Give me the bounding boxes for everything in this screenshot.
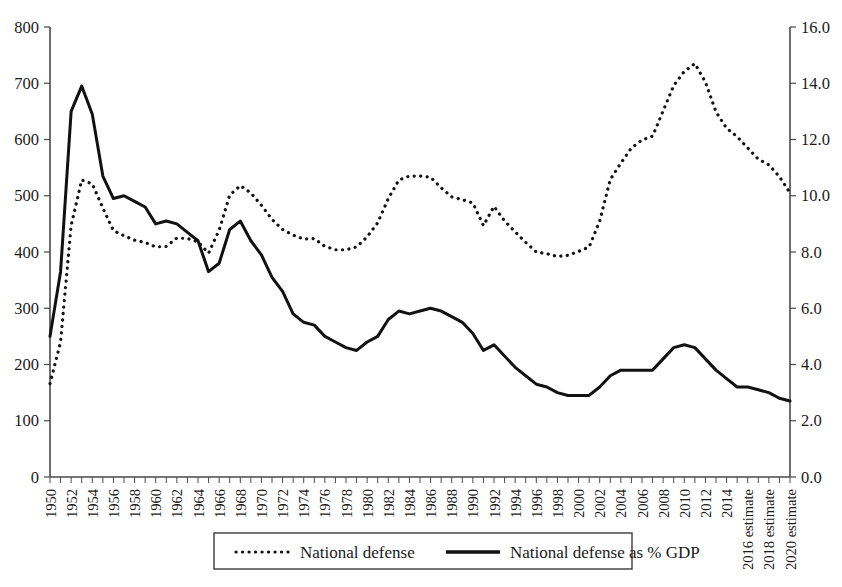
right-axis-tick-label: 12.0 (801, 130, 830, 149)
x-axis-tick-label: 1960 (148, 489, 164, 518)
left-axis-tick-label: 800 (14, 18, 39, 37)
left-axis-tick-label: 600 (14, 130, 39, 149)
right-axis-tick-label: 2.0 (801, 411, 822, 430)
x-axis-tick-label: 1990 (465, 489, 481, 518)
right-axis-tick-label: 6.0 (801, 299, 822, 318)
left-axis-tick-label: 200 (14, 355, 39, 374)
x-axis-tick-label: 2002 (592, 489, 608, 518)
x-axis-tick-label: 2014 (719, 488, 735, 518)
x-axis-tick-label: 1994 (508, 488, 524, 518)
series-line-defense-pct-gdp (50, 86, 790, 401)
x-axis-tick-label: 2008 (656, 489, 672, 518)
x-axis-tick-label: 2018 estimate (761, 489, 777, 570)
x-axis-tick-label: 1950 (43, 489, 59, 518)
x-axis-tick-label: 2012 (698, 489, 714, 518)
left-axis-tick-label: 400 (14, 243, 39, 262)
x-axis-tick-label: 1972 (275, 489, 291, 518)
x-axis-tick-label: 1998 (550, 489, 566, 518)
series-group (50, 64, 790, 402)
tick-labels-group: 01002003004005006007008000.02.04.06.08.0… (14, 18, 830, 570)
right-axis-tick-label: 16.0 (801, 18, 830, 37)
x-axis-tick-label: 2004 (613, 488, 629, 518)
x-axis-tick-label: 2016 estimate (740, 489, 756, 570)
axes-group (44, 27, 796, 483)
legend-item-label: National defense (300, 543, 415, 562)
right-axis-tick-label: 10.0 (801, 186, 830, 205)
x-axis-tick-label: 2020 estimate (783, 489, 799, 570)
chart-legend: National defenseNational defense as % GD… (214, 533, 700, 569)
x-axis-tick-label: 2010 (677, 489, 693, 518)
left-axis-tick-label: 700 (14, 74, 39, 93)
x-axis-tick-label: 1954 (85, 488, 101, 518)
right-axis-tick-label: 14.0 (801, 74, 830, 93)
x-axis-tick-label: 1956 (106, 489, 122, 518)
x-axis-tick-label: 1958 (127, 489, 143, 518)
chart-figure: 01002003004005006007008000.02.04.06.08.0… (0, 0, 842, 587)
x-axis-tick-label: 2000 (571, 489, 587, 518)
left-axis-tick-label: 0 (31, 468, 39, 487)
x-axis-tick-label: 1996 (529, 489, 545, 518)
left-axis-tick-label: 100 (14, 411, 39, 430)
x-axis-tick-label: 1988 (444, 489, 460, 518)
x-axis-tick-label: 1974 (296, 488, 312, 518)
x-axis-tick-label: 1982 (381, 489, 397, 518)
legend-item-label: National defense as % GDP (510, 543, 700, 562)
x-axis-tick-label: 2006 (635, 489, 651, 518)
x-axis-tick-label: 1970 (254, 489, 270, 518)
x-axis-tick-label: 1986 (423, 489, 439, 518)
x-axis-tick-label: 1976 (317, 489, 333, 518)
right-axis-tick-label: 0.0 (801, 468, 822, 487)
x-axis-tick-label: 1968 (233, 489, 249, 518)
x-axis-tick-label: 1952 (64, 489, 80, 518)
left-axis-tick-label: 300 (14, 299, 39, 318)
x-axis-tick-label: 1980 (360, 489, 376, 518)
left-axis-tick-label: 500 (14, 186, 39, 205)
x-axis-tick-label: 1962 (169, 489, 185, 518)
x-axis-tick-label: 1992 (487, 489, 503, 518)
right-axis-tick-label: 8.0 (801, 243, 822, 262)
right-axis-tick-label: 4.0 (801, 355, 822, 374)
x-axis-tick-label: 1978 (339, 489, 355, 518)
x-axis-tick-label: 1984 (402, 488, 418, 518)
x-axis-tick-label: 1964 (191, 488, 207, 518)
defense-spending-line-chart: 01002003004005006007008000.02.04.06.08.0… (0, 0, 842, 587)
x-axis-tick-label: 1966 (212, 489, 228, 518)
